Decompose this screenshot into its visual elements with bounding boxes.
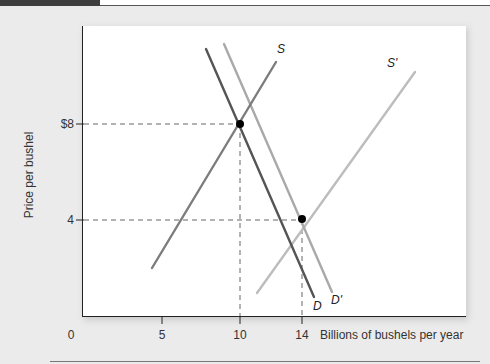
y-tick-4: 4: [34, 213, 74, 227]
x-tick-0: 0: [68, 328, 75, 342]
y-axis-label: Price per bushel: [22, 132, 36, 219]
equilibrium-point-2: [298, 215, 306, 223]
label-s: S: [277, 42, 285, 56]
x-tick-10: 10: [233, 328, 246, 342]
x-tick-14: 14: [295, 328, 308, 342]
demand-curve-d: [206, 49, 314, 297]
axis-ticks: [76, 124, 302, 324]
chart-svg: [0, 0, 490, 364]
x-axis-label: Billions of bushels per year: [320, 328, 463, 342]
label-s-prime: S': [387, 56, 397, 70]
bottom-rule: [50, 361, 480, 362]
supply-curve-s-prime: [257, 72, 415, 293]
y-tick-8: $8: [34, 117, 74, 131]
label-d: D: [313, 299, 322, 313]
x-tick-5: 5: [159, 328, 166, 342]
equilibrium-point-1: [236, 120, 244, 128]
guide-lines: [84, 124, 302, 316]
label-d-prime: D': [331, 293, 342, 307]
